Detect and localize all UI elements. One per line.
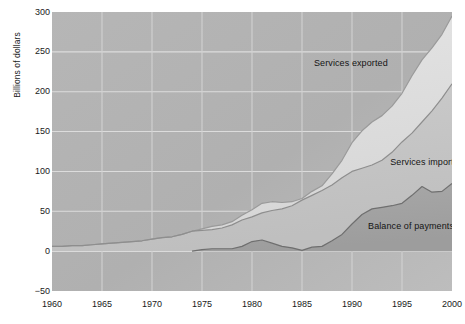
x-tick-label: 1980 — [228, 300, 276, 309]
chart-container: Billions of dollars 300250200150100500−5… — [0, 0, 465, 324]
x-axis-tick-labels: 196019651970197519801985199019952000 — [0, 0, 465, 324]
x-tick-label: 1985 — [278, 300, 326, 309]
x-tick-label: 1975 — [178, 300, 226, 309]
x-tick-label: 1960 — [28, 300, 76, 309]
x-tick-label: 1970 — [128, 300, 176, 309]
x-tick-label: 2000 — [428, 300, 465, 309]
x-tick-label: 1965 — [78, 300, 126, 309]
x-tick-label: 1995 — [378, 300, 426, 309]
x-tick-label: 1990 — [328, 300, 376, 309]
